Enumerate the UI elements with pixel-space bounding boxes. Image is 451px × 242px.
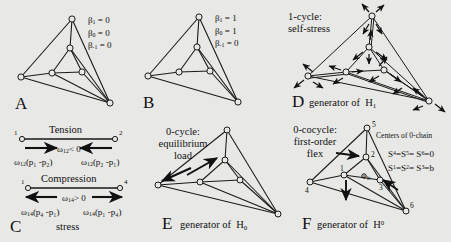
node xyxy=(343,69,349,75)
panel-e-caption-text: generator of xyxy=(180,219,231,230)
node xyxy=(364,125,370,131)
panel-e-title-line2: equilibrium xyxy=(147,138,219,150)
panel-c: Tension 1 2 ω12< 0 ω12(p₁ -p₂) ω12(p₂ -p… xyxy=(0,118,150,242)
panel-f-vertex-2: 2 xyxy=(371,151,375,159)
panel-f-center-marker-label: b xyxy=(367,175,371,183)
panel-e-title-line3: load xyxy=(147,150,219,162)
beta-minus1-symbol: β-1 xyxy=(88,40,98,50)
panel-b-letter: B xyxy=(143,93,154,112)
beta-1-value: = 0 xyxy=(98,15,110,25)
beta-0-value: = 0 xyxy=(98,28,110,38)
panel-f-caption: generator of H0 xyxy=(317,219,384,231)
beta-1-value: = 1 xyxy=(225,13,237,23)
node xyxy=(224,127,230,133)
beta-0-value: = 1 xyxy=(225,26,237,36)
tension-formula-right: ω12(p₂ -p₁) xyxy=(81,156,119,169)
panel-e-title: 0-cycle: equilibrium load xyxy=(147,126,219,161)
panel-c-caption: stress xyxy=(56,221,79,233)
panel-d-caption-text: generator of xyxy=(309,97,360,108)
node xyxy=(155,182,161,188)
node xyxy=(18,74,24,80)
panel-b: β1 = 1 β0 = 1 β-1 = 0 B xyxy=(135,0,280,118)
node xyxy=(426,98,432,104)
panel-f-cohomology-symbol: H0 xyxy=(371,219,385,230)
panel-e-caption: generator of H0 xyxy=(180,219,247,231)
panel-e-homology-symbol: H0 xyxy=(234,219,248,230)
node xyxy=(49,70,55,76)
panel-b-framework xyxy=(135,0,280,118)
panel-f-title-line2: first-order xyxy=(278,136,352,148)
node xyxy=(145,73,151,79)
node xyxy=(403,208,409,214)
tension-formula-left: ω12(p₁ -p₂) xyxy=(14,156,52,169)
node xyxy=(222,157,228,163)
beta-1-symbol: β1 xyxy=(215,13,223,23)
node xyxy=(381,67,387,73)
panel-a-betti-numbers: β1 = 0 β0 = 0 β-1 = 0 xyxy=(88,14,112,52)
tension-title: Tension xyxy=(49,124,82,136)
node xyxy=(207,68,213,74)
beta-0-symbol: β0 xyxy=(88,28,96,38)
panel-d-homology-symbol: H1 xyxy=(363,97,377,108)
equilibrium-load-arrows xyxy=(162,158,217,181)
node xyxy=(366,44,372,50)
compression-condition: ω14> 0 xyxy=(62,192,86,205)
panel-f-caption-text: generator of xyxy=(317,219,368,230)
compression-node-right-label: 4 xyxy=(124,179,128,187)
beta-1-symbol: β1 xyxy=(88,15,96,25)
beta-minus1-value: = 0 xyxy=(227,38,239,48)
node xyxy=(363,154,369,160)
panel-d-caption: generator of H1 xyxy=(309,97,376,109)
panel-f-letter: F xyxy=(302,214,311,233)
node xyxy=(19,136,24,141)
center-of-chain-dot-icon xyxy=(363,175,365,177)
node xyxy=(107,100,113,106)
node xyxy=(112,136,117,141)
panel-a: β1 = 0 β0 = 0 β-1 = 0 A xyxy=(0,0,140,118)
panel-f-vertex-1: 1 xyxy=(340,165,344,173)
node xyxy=(25,185,30,190)
beta-minus1-symbol: β-1 xyxy=(215,38,225,48)
compression-formula-left: ω14(p₄ -p₁) xyxy=(21,206,59,219)
panel-f-title: 0-cocycle: first-order flex xyxy=(278,124,352,159)
node xyxy=(117,185,122,190)
node xyxy=(67,45,73,51)
tension-node-left-label: 1 xyxy=(14,130,18,138)
panel-e-title-line1: 0-cycle: xyxy=(147,126,219,138)
panel-f-centers-label: Centers of 0-chain xyxy=(376,132,432,141)
panel-a-letter: A xyxy=(15,94,27,113)
tension-node-right-label: 2 xyxy=(119,130,123,138)
panel-f-vertex-6: 6 xyxy=(410,202,414,210)
compression-title: Compression xyxy=(41,173,96,185)
beta-0-symbol: β0 xyxy=(215,26,223,36)
node xyxy=(305,73,311,79)
node xyxy=(176,69,182,75)
panel-f-vertex-3: 3 xyxy=(379,184,383,192)
tension-condition: ω12< 0 xyxy=(57,143,81,156)
node xyxy=(197,179,203,185)
panel-e-letter: E xyxy=(162,214,172,233)
compression-node-left-label: 1 xyxy=(21,179,25,187)
panel-f-title-line3: flex xyxy=(278,148,352,160)
panel-f-vertex-4: 4 xyxy=(305,187,309,195)
panel-d-title-line1: 1-cycle: xyxy=(288,11,330,23)
panel-f: 0-cocycle: first-order flex Centers of 0… xyxy=(278,118,451,242)
node xyxy=(194,44,200,50)
node xyxy=(79,69,85,75)
panel-e: 0-cycle: equilibrium load E generator of… xyxy=(145,118,285,242)
node xyxy=(307,179,313,185)
panel-f-equation-1: S4=S5= S6=0 xyxy=(388,148,434,160)
node xyxy=(196,14,202,20)
node xyxy=(69,16,75,22)
panel-d-letter: D xyxy=(292,92,304,111)
node xyxy=(237,177,243,183)
beta-minus1-value: = 0 xyxy=(100,40,112,50)
panel-f-equation-2: S1=S2= S3=b xyxy=(388,162,434,174)
panel-d-title-line2: self-stress xyxy=(288,23,330,35)
panel-f-vertex-5: 5 xyxy=(372,121,376,129)
panel-f-title-line1: 0-cocycle: xyxy=(278,124,352,136)
panel-d: 1-cycle: self-stress D generator of H1 xyxy=(283,0,451,118)
panel-b-betti-numbers: β1 = 1 β0 = 1 β-1 = 0 xyxy=(215,12,239,50)
panel-d-title: 1-cycle: self-stress xyxy=(288,11,330,35)
compression-formula-right: ω14(p₁ -p₄) xyxy=(83,206,121,219)
